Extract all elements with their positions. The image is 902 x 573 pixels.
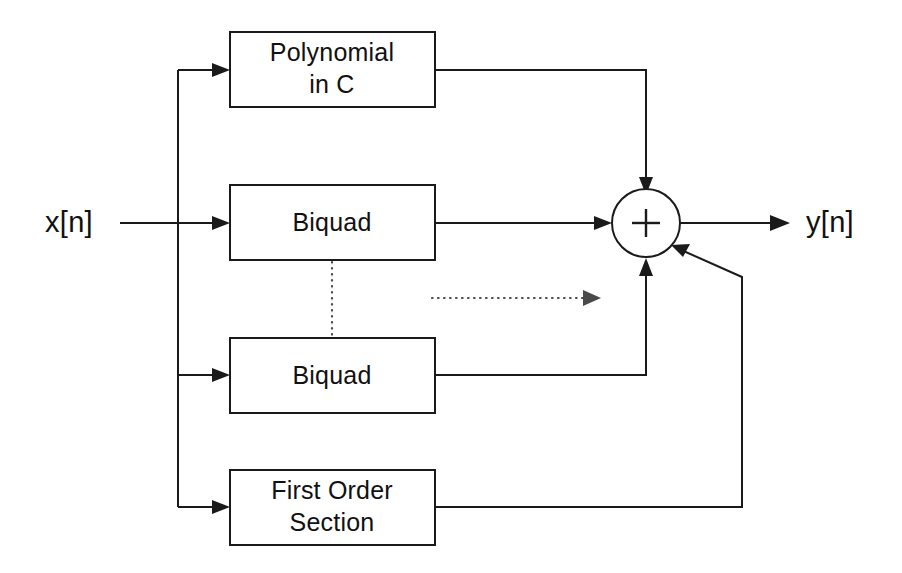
- output-wire-polynomial: [435, 70, 653, 195]
- arrow-head-output: [770, 215, 790, 231]
- block-biquad-last[interactable]: Biquad: [230, 338, 435, 413]
- input-signal-label: x[n]: [45, 206, 93, 238]
- block-polynomial-in-c[interactable]: Polynomial in C: [230, 32, 435, 107]
- branch-wire-first-order: [178, 500, 230, 514]
- block-first-order-section[interactable]: First Order Section: [230, 470, 435, 545]
- summer-output-wire: [679, 215, 790, 231]
- block-polynomial-in-c-label-line1: Polynomial: [270, 38, 394, 66]
- arrow-head-summer-bottom: [639, 258, 653, 276]
- output-signal-label: y[n]: [806, 206, 854, 238]
- branch-wire-biquad-last: [178, 368, 230, 382]
- block-biquad-first[interactable]: Biquad: [230, 185, 435, 260]
- block-diagram-canvas: Polynomial in C Biquad Biquad First Orde…: [0, 0, 902, 573]
- output-first-order-path: [435, 249, 742, 507]
- summing-junction[interactable]: [612, 189, 680, 257]
- arrow-head-first-order-input: [212, 500, 230, 514]
- block-biquad-last-label: Biquad: [292, 361, 371, 389]
- arrow-head-biquad-first-input: [212, 216, 230, 230]
- arrow-head-summer-diagonal: [671, 244, 690, 257]
- branch-wire-biquad-first: [178, 216, 230, 230]
- block-first-order-section-label-line2: Section: [290, 508, 375, 536]
- arrow-head-polynomial-input: [212, 63, 230, 77]
- arrow-head-summer-left: [594, 216, 612, 230]
- arrow-head-biquad-last-input: [212, 368, 230, 382]
- output-wire-biquad-first: [435, 216, 612, 230]
- horizontal-ellipsis-dotted-arrow: [432, 290, 601, 306]
- output-polynomial-path: [435, 70, 646, 186]
- output-biquad-last-path: [435, 267, 646, 375]
- branch-wire-polynomial: [178, 63, 230, 77]
- diagram-svg: Polynomial in C Biquad Biquad First Orde…: [0, 0, 902, 573]
- arrow-head-ellipsis: [583, 290, 601, 306]
- output-wire-biquad-last: [435, 258, 653, 375]
- block-first-order-section-label-line1: First Order: [271, 476, 393, 504]
- block-polynomial-in-c-label-line2: in C: [309, 70, 354, 98]
- input-wire-group: [120, 70, 178, 507]
- block-biquad-first-label: Biquad: [292, 208, 371, 236]
